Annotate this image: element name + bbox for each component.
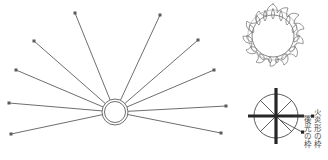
ray-line [115, 15, 160, 112]
flame-tongue [272, 9, 275, 19]
ray-endpoint-marker [8, 102, 11, 105]
ray-endpoint-marker [213, 69, 216, 72]
flame-center-circle [252, 15, 294, 57]
figure-canvas: 火炎形の枠 後光の枠 [0, 0, 328, 160]
ray-line [115, 70, 214, 112]
ray-line [34, 41, 115, 112]
flame-tongue [247, 36, 252, 42]
ray-endpoint-marker [15, 69, 18, 72]
halo-frame-label: 後光の枠 [303, 116, 311, 148]
ray-line [9, 103, 115, 112]
rays-diagram-panel [0, 0, 236, 160]
ray-endpoint-marker [33, 40, 36, 43]
ray-endpoint-marker [10, 133, 13, 136]
ray-line [11, 112, 115, 134]
ray-endpoint-marker [225, 105, 228, 108]
flame-tongue [294, 36, 299, 42]
center-inner-circle [105, 102, 126, 123]
ray-endpoint-marker [159, 14, 162, 17]
flame-frame-panel [234, 0, 312, 72]
flame-frame-svg [234, 0, 312, 72]
rays-svg [0, 0, 236, 160]
ray-line [115, 106, 226, 112]
ray-line [115, 40, 198, 112]
flame-inner-band [248, 10, 298, 60]
flame-frame-label: 火炎形の枠 [313, 108, 321, 148]
ray-endpoint-marker [220, 132, 223, 135]
ray-endpoint-marker [197, 39, 200, 42]
leader-line-halo [280, 120, 302, 132]
ray-endpoint-marker [74, 12, 77, 15]
ray-line [115, 112, 221, 133]
